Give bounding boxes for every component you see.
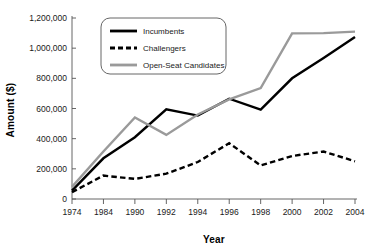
- y-tick-label: 1,000,000: [29, 43, 67, 53]
- chart-svg: 0200,000400,000600,000800,0001,000,0001,…: [0, 0, 385, 249]
- y-tick-label: 1,200,000: [29, 13, 67, 23]
- x-tick-label: 2002: [314, 207, 333, 217]
- x-tick-label: 1992: [157, 207, 176, 217]
- y-tick-label: 600,000: [36, 104, 67, 114]
- x-tick-label: 1974: [63, 207, 82, 217]
- y-tick-label: 200,000: [36, 164, 67, 174]
- x-tick-label: 1996: [220, 207, 239, 217]
- legend-label-3: Open-Seat Candidates: [143, 61, 224, 70]
- y-tick-label: 0: [62, 194, 67, 204]
- y-tick-label: 400,000: [36, 134, 67, 144]
- legend-label-1: Incumbents: [143, 27, 184, 36]
- line-chart: 0200,000400,000600,000800,0001,000,0001,…: [0, 0, 385, 249]
- y-tick-label: 800,000: [36, 73, 67, 83]
- x-tick-label: 1990: [125, 207, 144, 217]
- y-axis-title: Amount ($): [5, 83, 16, 138]
- x-tick-label: 1998: [251, 207, 270, 217]
- x-tick-label: 1994: [188, 207, 207, 217]
- x-tick-label: 1984: [94, 207, 113, 217]
- x-axis-title: Year: [203, 234, 225, 245]
- x-tick-label: 2000: [283, 207, 302, 217]
- legend-label-2: Challengers: [143, 44, 186, 53]
- x-tick-label: 2004: [346, 207, 365, 217]
